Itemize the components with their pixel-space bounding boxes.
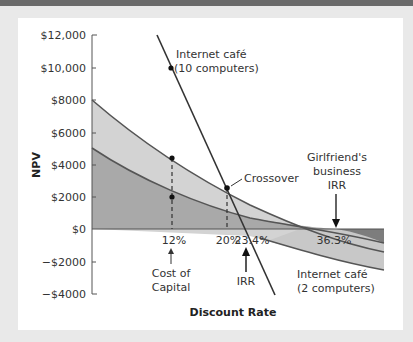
y-tick-label: $10,000 — [41, 62, 87, 75]
y-tick-label: $12,000 — [41, 29, 87, 42]
crossover-point — [224, 185, 230, 191]
cafe10-label-1: Internet café — [176, 48, 247, 61]
coc-label-1: Cost of — [152, 267, 192, 280]
irr-arrowhead — [242, 247, 250, 256]
y-tick-label: $4000 — [51, 159, 86, 172]
girlfriend-arrowhead — [332, 219, 340, 228]
crossover-label: Crossover — [244, 172, 299, 185]
y-tick-label: −$2000 — [42, 256, 86, 269]
y-tick-label: −$4000 — [42, 288, 86, 301]
cafe10-point — [168, 65, 173, 70]
coc-point-upper — [169, 155, 174, 160]
x-tick-label: 36.3% — [317, 234, 352, 247]
y-tick-label: $0 — [72, 223, 86, 236]
girlfriend-label-1: Girlfriend's — [307, 151, 367, 164]
x-tick-label: 23.4% — [235, 234, 270, 247]
y-tick-label: $2000 — [51, 191, 86, 204]
cafe2-label-2: (2 computers) — [297, 282, 375, 295]
girlfriend-label-2: business — [313, 165, 361, 178]
girlfriend-label-3: IRR — [328, 179, 347, 192]
x-tick-label: 12% — [162, 234, 186, 247]
y-tick-label: $6000 — [51, 127, 86, 140]
x-axis-title: Discount Rate — [190, 306, 277, 319]
cafe2-label-1: Internet café — [297, 268, 368, 281]
y-tick-label: $8000 — [51, 94, 86, 107]
coc-arrowhead — [168, 248, 174, 254]
crossover-arrow — [231, 179, 242, 186]
coc-point-lower — [169, 194, 174, 199]
coc-label-2: Capital — [152, 281, 191, 294]
cafe10-label-2: (10 computers) — [174, 62, 259, 75]
y-axis-title: NPV — [30, 152, 43, 178]
irr-label: IRR — [237, 275, 256, 288]
npv-chart: $12,000 $10,000 $8000 $6000 $4000 $2000 … — [0, 0, 413, 342]
